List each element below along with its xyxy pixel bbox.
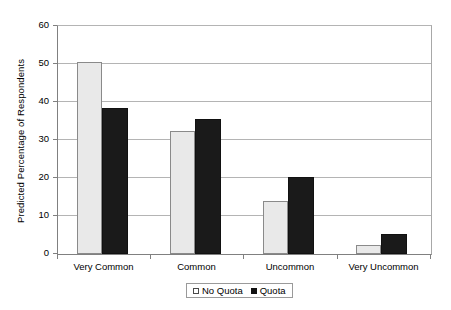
plot-area	[57, 25, 432, 255]
y-tick-label-50: 50	[15, 58, 49, 68]
x-category-label-uncommon: Uncommon	[243, 261, 337, 272]
bar-uncommon-no-quota	[263, 201, 288, 254]
legend-entry-quota: Quota	[251, 286, 286, 296]
x-category-label-common: Common	[150, 261, 243, 272]
x-tick-mark-4	[430, 254, 431, 259]
bar-common-quota	[195, 119, 221, 254]
y-tick-label-40: 40	[15, 96, 49, 106]
legend-swatch-no-quota-icon	[193, 288, 199, 294]
x-category-label-very-common: Very Common	[57, 261, 150, 272]
bar-very-uncommon-no-quota	[356, 245, 381, 255]
bar-chart: Predicted Percentage of Respondents 60 5…	[0, 0, 451, 310]
bar-very-uncommon-quota	[381, 234, 407, 254]
legend-label-quota: Quota	[260, 286, 286, 296]
y-tick-label-60: 60	[15, 20, 49, 30]
chart-legend: No Quota Quota	[186, 283, 293, 298]
legend-label-no-quota: No Quota	[202, 286, 243, 296]
y-tick-label-30: 30	[15, 134, 49, 144]
gridline-50	[58, 63, 431, 64]
x-tick-mark-0	[57, 254, 58, 259]
x-tick-mark-1	[150, 254, 151, 259]
y-tick-label-20: 20	[15, 172, 49, 182]
x-category-label-very-uncommon: Very Uncommon	[337, 261, 430, 272]
legend-entry-no-quota: No Quota	[193, 286, 243, 296]
bar-uncommon-quota	[288, 177, 314, 254]
bar-very-common-no-quota	[77, 62, 102, 254]
gridline-40	[58, 101, 431, 102]
y-tick-label-10: 10	[15, 210, 49, 220]
bar-common-no-quota	[170, 131, 195, 255]
x-tick-mark-3	[337, 254, 338, 259]
x-tick-mark-2	[243, 254, 244, 259]
bar-very-common-quota	[102, 108, 128, 254]
y-tick-label-0: 0	[15, 248, 49, 258]
legend-swatch-quota-icon	[251, 288, 257, 294]
